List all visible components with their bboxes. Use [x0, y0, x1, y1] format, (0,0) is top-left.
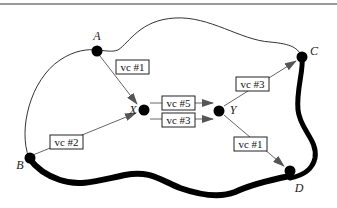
- vc-label-x-y-5: vc #5: [162, 96, 195, 110]
- svg-text:vc #2: vc #2: [54, 136, 78, 148]
- node-label-d: D: [294, 181, 304, 195]
- node-label-y: Y: [230, 103, 238, 117]
- vc-label-b-x: vc #2: [50, 135, 83, 149]
- vc-label-y-d: vc #1: [234, 137, 267, 151]
- node-label-c: C: [310, 44, 319, 58]
- node-b: [25, 153, 36, 164]
- svg-text:vc #3: vc #3: [166, 114, 191, 126]
- node-label-a: A: [92, 29, 101, 43]
- svg-text:vc #3: vc #3: [240, 78, 265, 90]
- node-y: [214, 106, 225, 117]
- node-a: [92, 46, 103, 57]
- network-boundary-thick-bottom: [29, 158, 290, 195]
- node-c: [297, 52, 308, 63]
- svg-text:vc #1: vc #1: [120, 61, 144, 73]
- vc-label-a-x: vc #1: [116, 60, 149, 74]
- svg-text:vc #1: vc #1: [238, 138, 262, 150]
- node-label-x: X: [128, 103, 137, 117]
- vc-arrow-b-x: [33, 113, 136, 155]
- vc-label-x-y-3: vc #3: [162, 113, 195, 127]
- node-x: [139, 105, 150, 116]
- virtual-circuit-diagram: vc #1 vc #2 vc #5 vc #3 vc #3 vc #1 A B …: [0, 0, 337, 208]
- network-boundary-thick-right: [290, 57, 315, 178]
- svg-text:vc #5: vc #5: [166, 97, 191, 109]
- node-label-b: B: [16, 158, 24, 172]
- node-d: [285, 166, 296, 177]
- vc-label-y-c: vc #3: [236, 77, 269, 91]
